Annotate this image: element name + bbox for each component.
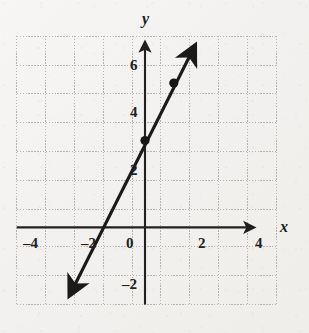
y-tick-label--2: –2 [122,277,137,292]
y-axis-label: y [142,11,149,27]
y-tick-label-2: 2 [130,163,138,178]
data-point-0-3 [140,136,149,145]
graph-figure [0,0,309,333]
y-tick-label-6: 6 [130,58,138,73]
x-axis-label: x [280,219,288,235]
x-tick-label--4: –4 [23,236,38,251]
data-point-1-5 [169,78,178,87]
grid-lines [17,36,276,305]
x-tick-label-4: 4 [255,236,263,251]
x-tick-label--2: –2 [81,236,96,251]
y-tick-label-4: 4 [130,105,138,120]
x-tick-label-2: 2 [198,236,206,251]
x-tick-label-0: 0 [126,236,134,251]
